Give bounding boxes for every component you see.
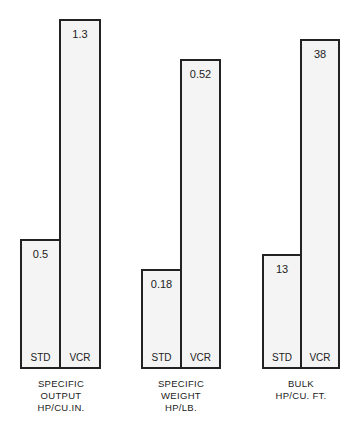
value-label: 0.18 (143, 278, 180, 290)
category-label: STD (264, 352, 300, 363)
category-label: VCR (61, 352, 99, 363)
category-label: VCR (182, 352, 219, 363)
bar-bulk-vcr: 38 VCR (300, 39, 340, 369)
value-label: 13 (264, 263, 300, 275)
group-caption-specific-weight: SPECIFIC WEIGHT HP/LB. (126, 378, 236, 414)
category-label: STD (143, 352, 180, 363)
bar-bulk-std: 13 STD (262, 254, 302, 369)
value-label: 38 (302, 48, 338, 60)
caption-line: HP/CU.IN. (6, 402, 116, 414)
category-label: STD (22, 352, 59, 363)
bar-specific-weight-vcr: 0.52 VCR (180, 59, 221, 369)
bar-specific-weight-std: 0.18 STD (141, 269, 182, 369)
value-label: 0.5 (22, 248, 59, 260)
caption-line: BULK (246, 378, 356, 390)
caption-line: HP/CU. FT. (246, 390, 356, 402)
caption-line: SPECIFIC (6, 378, 116, 390)
group-caption-bulk: BULK HP/CU. FT. (246, 378, 356, 402)
bar-specific-output-vcr: 1.3 VCR (59, 19, 101, 369)
caption-line: WEIGHT (126, 390, 236, 402)
category-label: VCR (302, 352, 338, 363)
caption-line: SPECIFIC (126, 378, 236, 390)
group-caption-specific-output: SPECIFIC OUTPUT HP/CU.IN. (6, 378, 116, 414)
caption-line: OUTPUT (6, 390, 116, 402)
value-label: 0.52 (182, 68, 219, 80)
caption-line: HP/LB. (126, 402, 236, 414)
bar-specific-output-std: 0.5 STD (20, 239, 61, 369)
value-label: 1.3 (61, 28, 99, 40)
